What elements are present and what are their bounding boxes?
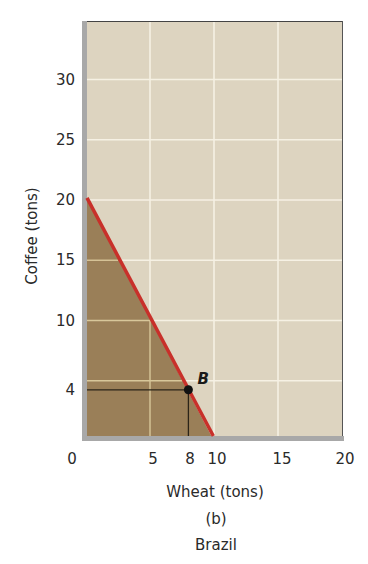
point-marker bbox=[184, 385, 193, 394]
x-tick-label: 5 bbox=[148, 450, 158, 468]
panel-label: (b) bbox=[205, 510, 226, 528]
y-tick-label: 15 bbox=[56, 251, 75, 269]
x-tick-label: 8 bbox=[185, 450, 195, 468]
x-tick-label: 0 bbox=[67, 450, 77, 468]
y-tick-label: 20 bbox=[56, 191, 75, 209]
x-tick-label: 10 bbox=[207, 450, 226, 468]
x-axis-label: Wheat (tons) bbox=[166, 483, 264, 501]
x-tick-label: 15 bbox=[272, 450, 291, 468]
point-label: B bbox=[197, 370, 208, 388]
y-axis-label: Coffee (tons) bbox=[23, 187, 41, 284]
y-axis-band bbox=[82, 21, 87, 441]
x-tick-labels: 058101520 bbox=[67, 450, 354, 468]
chart-caption: Brazil bbox=[195, 536, 237, 554]
y-tick-label: 25 bbox=[56, 131, 75, 149]
y-tick-label: 30 bbox=[56, 71, 75, 89]
x-axis-band bbox=[82, 436, 344, 441]
y-tick-label: 4 bbox=[65, 381, 75, 399]
chart: B 058101520 41015202530 Wheat (tons) Cof… bbox=[0, 0, 368, 564]
y-tick-labels: 41015202530 bbox=[56, 71, 75, 400]
y-tick-label: 10 bbox=[56, 312, 75, 330]
x-tick-label: 20 bbox=[335, 450, 354, 468]
